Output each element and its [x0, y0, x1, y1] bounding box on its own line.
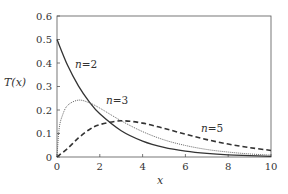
x-tick-label: 10 — [265, 161, 278, 172]
y-tick-label: 0.6 — [36, 11, 52, 22]
y-ticks: 00.10.20.30.40.50.6 — [36, 11, 60, 163]
chart: 00.10.20.30.40.50.6 0246810 T(x) x n=2 n… — [0, 0, 288, 194]
y-tick-label: 0.4 — [36, 58, 52, 69]
curve-n5 — [57, 121, 271, 157]
y-axis-label: T(x) — [4, 76, 26, 89]
label-n5: n=5 — [201, 122, 223, 134]
x-tick-label: 6 — [182, 161, 188, 172]
x-axis-label: x — [157, 174, 164, 187]
y-tick-label: 0.5 — [36, 34, 52, 45]
label-n2: n=2 — [75, 58, 97, 70]
y-tick-label: 0.1 — [36, 128, 52, 139]
x-tick-label: 8 — [225, 161, 231, 172]
label-n3: n=3 — [106, 94, 128, 106]
x-tick-label: 4 — [139, 161, 145, 172]
x-tick-label: 0 — [54, 161, 60, 172]
y-tick-label: 0 — [46, 152, 52, 163]
y-tick-label: 0.3 — [36, 81, 52, 92]
x-tick-label: 2 — [97, 161, 103, 172]
curve-n3 — [57, 100, 271, 157]
y-tick-label: 0.2 — [36, 105, 52, 116]
plot-frame — [57, 16, 271, 157]
